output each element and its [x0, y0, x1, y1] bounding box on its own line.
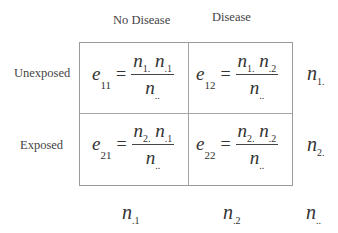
row-divider [80, 113, 292, 114]
cell-e12-formula: e12 = n1. n.2 n.. [196, 50, 278, 99]
column-total-2: n.2 [223, 201, 241, 224]
column-header-no-disease: No Disease [113, 13, 170, 28]
row-total-1: n1. [307, 62, 325, 85]
cell-e11-formula: e11 = n1. n.1 n.. [92, 50, 174, 99]
row-header-unexposed: Unexposed [14, 66, 70, 81]
column-total-1: n.1 [122, 201, 140, 224]
grand-total: n.. [306, 201, 321, 224]
column-header-disease: Disease [212, 10, 251, 25]
row-header-exposed: Exposed [20, 138, 63, 153]
column-divider [188, 43, 189, 185]
cell-e21-formula: e21 = n2. n.1 n.. [92, 120, 174, 169]
cell-e22-formula: e22 = n2. n.2 n.. [196, 120, 278, 169]
row-total-2: n2. [307, 133, 325, 156]
